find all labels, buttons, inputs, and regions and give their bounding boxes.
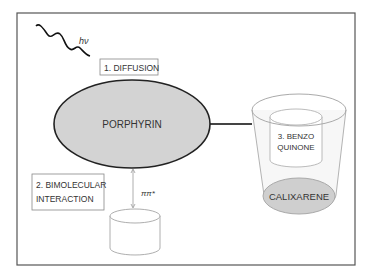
calixarene-label: CALIXARENE (269, 191, 329, 202)
light-label: hν (79, 36, 89, 46)
pi-label: ππ* (141, 189, 156, 198)
benzoquinone-label-line2: QUINONE (277, 143, 314, 152)
benzoquinone-cylinder-top (270, 109, 322, 125)
porphyrin-label: PORPHYRIN (102, 119, 161, 130)
cylinder-top (110, 209, 160, 223)
diffusion-label: 1. DIFFUSION (104, 63, 159, 73)
bimolecular-label-line1: 2. BIMOLECULAR (36, 180, 106, 190)
diagram-canvas: hν 1. DIFFUSION PORPHYRIN 2. BIMOLECULAR… (0, 0, 370, 280)
bimolecular-label-line2: INTERACTION (36, 194, 94, 204)
benzoquinone-label-line1: 3. BENZO (278, 132, 314, 141)
